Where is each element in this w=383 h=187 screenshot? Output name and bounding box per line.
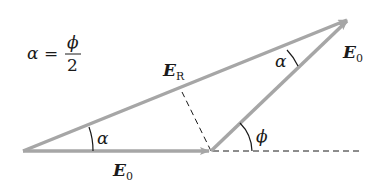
formula-numerator: ϕ [67, 32, 79, 52]
label-E0-horizontal-sub: 0 [126, 170, 133, 183]
formula-equals: = [44, 43, 58, 63]
formula-denominator: 2 [67, 55, 78, 75]
vector-E0-rotated [211, 21, 347, 151]
angle-arc-alpha-bottom [89, 127, 93, 151]
label-E0-rotated-main: E [342, 42, 357, 62]
angle-arc-phi [240, 123, 252, 151]
perpendicular-dashed-line [182, 92, 211, 151]
label-phi: ϕ [256, 126, 268, 146]
label-alpha-bottom: α [97, 128, 109, 148]
angle-arc-alpha-top [287, 50, 298, 66]
phasor-diagram: α = ϕ 2 E R E 0 E 0 α α ϕ [0, 0, 383, 187]
formula-lhs: α [27, 43, 39, 63]
label-ER-main: E [162, 60, 177, 80]
label-E0-rotated-sub: 0 [356, 52, 363, 65]
label-E0-horizontal-main: E [112, 160, 127, 180]
label-ER-sub: R [176, 70, 185, 83]
label-alpha-top: α [275, 51, 287, 71]
